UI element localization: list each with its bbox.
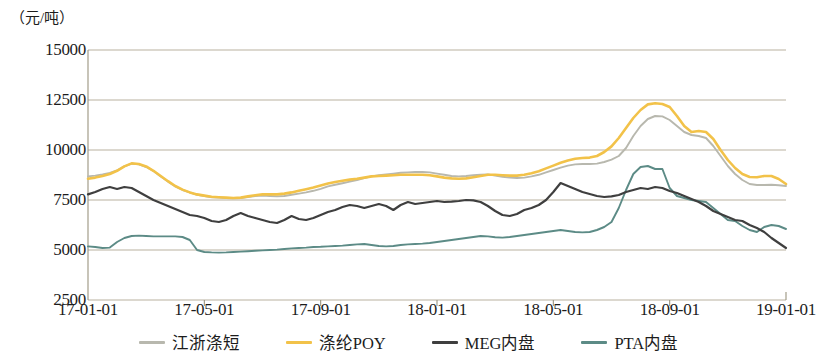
x-tick-label: 19-01-01: [756, 300, 816, 320]
legend-line-icon: [432, 341, 458, 344]
legend-item[interactable]: MEG内盘: [432, 330, 536, 354]
x-tick-label: 18-01-01: [407, 300, 467, 320]
legend-line-icon: [139, 341, 165, 344]
chart-container: （元/吨） 150001250010000750050002500 17-01-…: [0, 0, 817, 356]
chart-legend: 江浙涤短涤纶POYMEG内盘PTA内盘: [0, 328, 817, 356]
gridlines: [88, 50, 786, 300]
legend-label: 江浙涤短: [172, 330, 240, 354]
series-line: [88, 116, 786, 198]
legend-item[interactable]: 涤纶POY: [286, 330, 386, 354]
legend-line-icon: [286, 341, 312, 344]
legend-label: PTA内盘: [614, 330, 678, 354]
x-tick-label: 18-05-01: [523, 300, 583, 320]
series-line: [88, 103, 786, 198]
legend-label: 涤纶POY: [319, 330, 386, 354]
legend-line-icon: [581, 341, 607, 344]
series-line: [88, 166, 786, 253]
x-tick-label: 18-09-01: [640, 300, 700, 320]
legend-item[interactable]: 江浙涤短: [139, 330, 240, 354]
x-tick-label: 17-09-01: [291, 300, 351, 320]
series-lines: [88, 103, 786, 252]
legend-label: MEG内盘: [465, 330, 536, 354]
axis-frame: [88, 50, 786, 300]
x-tick-label: 17-05-01: [174, 300, 234, 320]
legend-item[interactable]: PTA内盘: [581, 330, 678, 354]
x-tick-label: 17-01-01: [58, 300, 118, 320]
